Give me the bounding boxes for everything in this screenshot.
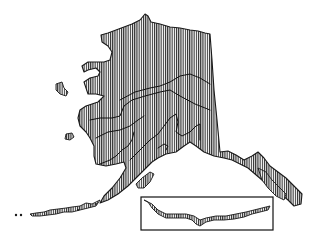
aleutian-islet — [95, 203, 97, 205]
aleutian-chain — [30, 200, 100, 216]
aleutian-islet — [15, 214, 17, 216]
nunivak-island — [65, 133, 74, 140]
aleutian-islet — [77, 209, 79, 211]
alaska-map — [0, 0, 313, 245]
aleutian-islands-inset — [141, 197, 273, 230]
aleutian-islet — [20, 214, 22, 216]
st-lawrence-island — [56, 82, 68, 96]
